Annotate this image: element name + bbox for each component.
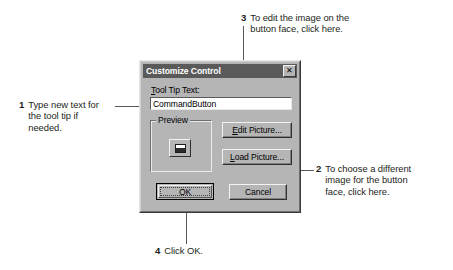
callout-2-text: To choose a different image for the butt… <box>325 163 411 197</box>
load-picture-button[interactable]: Load Picture... <box>222 149 292 165</box>
callout-3-number: 3 <box>241 12 246 23</box>
tooltip-text-label-rest: ool Tip Text: <box>155 85 199 95</box>
tooltip-text-input[interactable]: CommandButton <box>150 97 292 110</box>
callout-4: 4 Click OK. <box>155 245 295 256</box>
cancel-button-label: Cancel <box>245 187 271 197</box>
dialog-title: Customize Control <box>146 64 221 78</box>
load-picture-button-label: Load Picture... <box>230 152 284 162</box>
ok-button-label: OK <box>179 187 191 197</box>
ok-button[interactable]: OK <box>156 183 214 200</box>
tooltip-text-label: Tool Tip Text: <box>151 85 200 95</box>
dialog-frame: Customize Control ✕ Tool Tip Text: Comma… <box>140 61 300 212</box>
preview-groupbox-label: Preview <box>156 116 190 125</box>
callout-3: 3 To edit the image on the button face, … <box>241 12 441 35</box>
callout-1-text: Type new text for the tool tip if needed… <box>28 99 99 133</box>
callout-2: 2 To choose a different image for the bu… <box>316 163 451 197</box>
cancel-button[interactable]: Cancel <box>229 184 287 200</box>
callout-1: 1 Type new text for the tool tip if need… <box>19 99 137 133</box>
callout-3-text: To edit the image on the button face, cl… <box>250 12 349 35</box>
callout-2-number: 2 <box>316 163 321 174</box>
callout-1-number: 1 <box>19 99 24 110</box>
load-picture-rest: oad Picture... <box>235 152 284 162</box>
edit-picture-button[interactable]: Edit Picture... <box>222 122 292 138</box>
edit-picture-rest: dit Picture... <box>238 125 282 135</box>
picture-icon <box>175 144 186 153</box>
preview-groupbox: Preview <box>150 120 212 172</box>
close-icon[interactable]: ✕ <box>283 65 296 77</box>
customize-control-dialog: Customize Control ✕ Tool Tip Text: Comma… <box>139 60 301 213</box>
annotated-screenshot: 3 To edit the image on the button face, … <box>0 0 453 270</box>
callout-4-number: 4 <box>155 245 160 256</box>
close-icon-glyph: ✕ <box>286 67 293 75</box>
callout-4-text: Click OK. <box>164 245 203 256</box>
tooltip-text-value: CommandButton <box>153 99 216 109</box>
preview-button[interactable] <box>169 139 191 157</box>
edit-picture-button-label: Edit Picture... <box>232 125 282 135</box>
dialog-titlebar[interactable]: Customize Control ✕ <box>143 64 297 78</box>
